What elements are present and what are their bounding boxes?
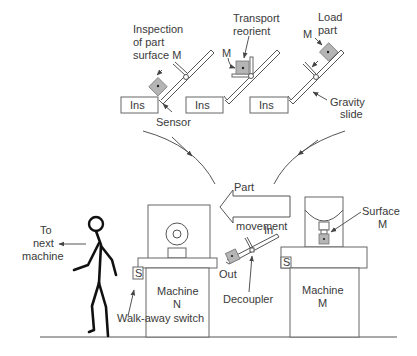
next-machine-label-1: To [40,224,52,236]
machine-n-label-2: N [173,298,181,310]
machine-m-label-1: Machine [302,284,344,296]
curve-arrow-left [143,131,215,184]
decoupler-label: Decoupler [223,293,273,305]
part-movement-arrow: Part movement [220,181,290,232]
transport-label-1: Transport [233,12,280,24]
inspection-label-1: Inspection [133,23,183,35]
gravity-slide-2 [224,50,280,104]
ins-label-2: Ins [195,99,210,111]
surface-m-label-2: M [378,218,387,230]
transport-part-label: M [222,47,231,59]
operator-figure: To next machine [22,217,116,336]
machine-m: Surface M S Machine M [281,197,400,337]
next-machine-label-2: next [33,237,54,249]
switch-n-label: S [135,267,142,279]
machine-n: Machine N S Walk-away switch [117,205,217,337]
load-label-1: Load [318,11,342,23]
inspection-label-3: surface M [133,49,181,61]
part-movement-label-top: Part [234,181,254,193]
load-label-2: part [318,24,337,36]
gravity-label-1: Gravity [330,96,365,108]
decoupler-out-label: Out [219,268,237,280]
sensor-label: Sensor [156,116,191,128]
machine-m-label-2: M [318,297,327,309]
surface-m-label-1: Surface [362,205,400,217]
machine-n-label-1: Machine [157,285,199,297]
curve-arrow-right [274,131,345,184]
gravity-label-2: slide [340,108,363,120]
walk-away-switch-label: Walk-away switch [117,312,204,324]
operator-head [89,217,103,231]
next-machine-label-3: machine [22,250,64,262]
load-part-label: M [303,28,312,40]
ins-label-3: Ins [259,99,274,111]
decoupler-in-label: In [264,224,273,236]
part-movement-label-bottom: movement [236,220,287,232]
transport-label-2: reorient [233,25,270,37]
decoupler: In Out Decoupler [219,224,279,305]
inspection-label-2: of part [133,36,164,48]
ins-label-1: Ins [130,99,145,111]
diagram-canvas: Inspection of part surface M Ins Sensor … [0,0,417,356]
switch-m-label: S [283,256,290,268]
